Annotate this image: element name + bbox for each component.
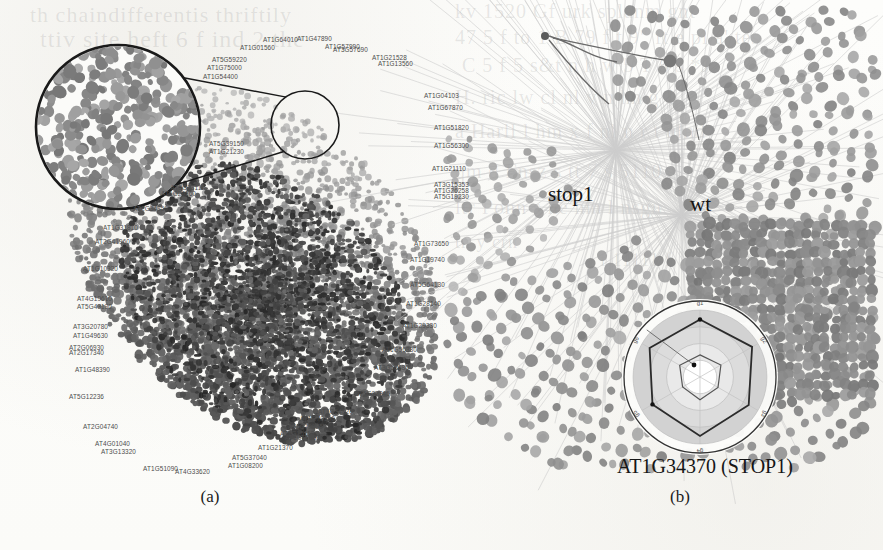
gene-label: AT1G61630 (285, 434, 320, 441)
gene-label: AT5G03345 (355, 390, 390, 397)
gene-label: AT1G70190 (300, 415, 335, 422)
panel-a-network (0, 0, 441, 550)
gene-label: AT3G58680 (374, 364, 409, 371)
panel-b-title: AT1G34370 (STOP1) (560, 455, 850, 478)
gene-label: AT1G21110 (432, 165, 466, 172)
gene-label: AT1G20160 (161, 190, 196, 197)
svg-text:g1: g1 (697, 300, 704, 306)
gene-label: AT5G12236 (69, 393, 104, 400)
gene-label: AT5G43130 (77, 303, 112, 310)
gene-label: AT1G29330 (402, 322, 437, 329)
gene-label: AT1G56330 (382, 346, 417, 353)
gene-label: AT1G01560 (240, 44, 275, 51)
gene-label: AT2G17340 (69, 349, 104, 356)
svg-text:g4: g4 (696, 448, 703, 454)
gene-label: AT1G08200 (228, 462, 263, 469)
network-node-label-stop1: stop1 (548, 182, 594, 207)
gene-label: AT1G19740 (410, 256, 445, 263)
gene-label: AT2G41960 (95, 238, 130, 245)
gene-label: AT2G04740 (83, 423, 118, 430)
network-node-label-wt: wt (690, 192, 711, 217)
gene-label: AT3G13320 (101, 448, 136, 455)
gene-label: AT1G51090 (143, 465, 178, 472)
gene-label: AT1G73650 (414, 240, 449, 247)
gene-label: AT4G01040 (95, 440, 130, 447)
gene-label: AT1G67870 (428, 104, 463, 111)
gene-label: AT1G56300 (434, 142, 469, 149)
gene-label: AT1G75000 (207, 64, 242, 71)
gene-label: AT3G20780 (73, 323, 108, 330)
caption-panel-a: (a) (150, 487, 270, 507)
gene-label: AT5G19230 (434, 193, 469, 200)
gene-label: AT2G34350 (133, 205, 168, 212)
gene-label: AT1G31810 (103, 224, 138, 231)
gene-label: AT1G13560 (378, 60, 413, 67)
gene-label: AT5G39150 (209, 140, 244, 147)
gene-label: AT1G51820 (434, 124, 469, 131)
gene-label: AT1G04103 (424, 92, 459, 99)
gene-label: AT1G49630 (73, 332, 108, 339)
gene-label: AT5G37040 (232, 454, 267, 461)
gene-label: AT1G28140 (406, 300, 441, 307)
gene-label: AT1G21230 (209, 148, 244, 155)
gene-label: AT5G64130 (410, 281, 445, 288)
gene-label: AT1G47890 (297, 35, 332, 42)
gene-label: AT3G57690 (333, 46, 368, 53)
caption-panel-b: (b) (600, 487, 760, 507)
gene-label: AT1G10320 (83, 265, 118, 272)
gene-label: AT1G21370 (258, 444, 293, 451)
gene-label: AT1G64010 (263, 36, 298, 43)
gene-label: AT1G48390 (75, 366, 110, 373)
gene-label: AT1G54400 (203, 73, 238, 80)
gene-label: AT4G33620 (175, 468, 210, 475)
gene-label: AT4G19610 (77, 295, 112, 302)
gene-label: AT5G59220 (212, 56, 247, 63)
